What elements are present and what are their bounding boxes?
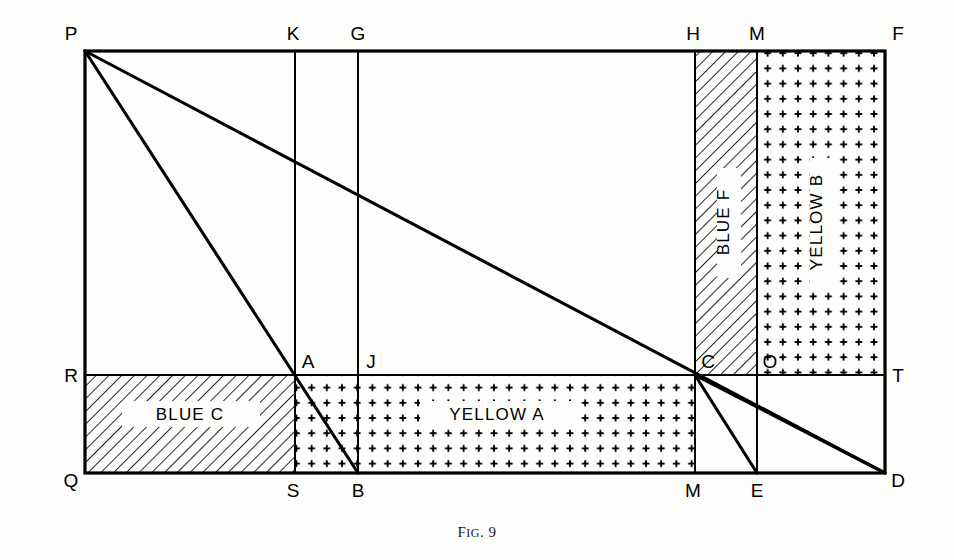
vertex-label-J: J bbox=[366, 351, 376, 372]
caption-smallcaps: IG bbox=[466, 526, 480, 540]
region-label-blue-f: BLUE F bbox=[714, 189, 733, 256]
vertex-label-D: D bbox=[891, 470, 905, 491]
vertex-label-C: C bbox=[701, 351, 715, 372]
figure-container: BLUE C YELLOW A BLUE F YELLOW B P K G H … bbox=[0, 0, 954, 560]
vertex-label-S: S bbox=[287, 480, 300, 501]
vertex-label-Q: Q bbox=[64, 470, 79, 491]
region-label-yellow-b: YELLOW B bbox=[807, 174, 826, 271]
vertex-label-E: E bbox=[751, 480, 764, 501]
vertex-label-F: F bbox=[892, 23, 904, 44]
diagonal-C-D bbox=[695, 375, 885, 473]
vertex-label-K: K bbox=[287, 23, 300, 44]
vertex-label-R: R bbox=[64, 365, 78, 386]
vertex-label-M-bottom: M bbox=[685, 480, 701, 501]
caption-suffix: . 9 bbox=[480, 524, 497, 540]
vertex-label-A: A bbox=[302, 351, 315, 372]
vertex-label-H: H bbox=[686, 23, 700, 44]
vertex-label-G: G bbox=[351, 23, 366, 44]
caption-prefix: F bbox=[457, 524, 466, 540]
region-label-blue-c: BLUE C bbox=[156, 405, 225, 424]
vertex-label-B: B bbox=[352, 480, 365, 501]
figure-caption: FIG. 9 bbox=[0, 524, 954, 541]
region-label-yellow-a: YELLOW A bbox=[449, 405, 545, 424]
vertex-label-P: P bbox=[65, 23, 78, 44]
geometry-diagram: BLUE C YELLOW A BLUE F YELLOW B P K G H … bbox=[0, 0, 954, 560]
vertex-label-T: T bbox=[892, 365, 904, 386]
vertex-label-M-top: M bbox=[749, 23, 765, 44]
vertex-label-O: O bbox=[763, 351, 778, 372]
